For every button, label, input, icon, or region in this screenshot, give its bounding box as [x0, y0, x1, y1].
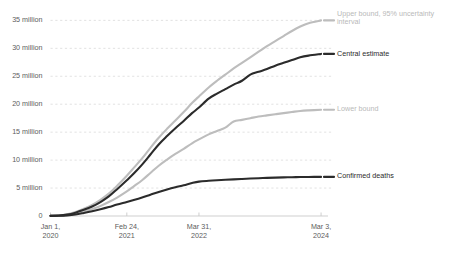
y-tick-label-7: 35 million	[12, 15, 42, 24]
x-tick-label-2-line1: Mar 31,	[187, 222, 211, 231]
x-tick-label-1-line1: Feb 24,	[115, 222, 139, 231]
y-tick-label-4: 20 million	[12, 99, 42, 108]
series-line-lower-bound	[51, 110, 322, 216]
data-series	[51, 20, 322, 216]
y-tick-label-3: 15 million	[12, 127, 42, 136]
chart-container: 05 million10 million15 million20 million…	[0, 0, 453, 256]
y-tick-label-1: 5 million	[16, 183, 42, 192]
legend-label-central-estimate: Central estimate	[337, 49, 389, 58]
x-tick-label-1-line2: 2021	[119, 231, 135, 240]
x-tick-label-0-line2: 2020	[43, 231, 59, 240]
y-axis-tick-labels: 05 million10 million15 million20 million…	[12, 15, 42, 220]
legend-label-lower-bound: Lower bound	[337, 104, 379, 113]
inline-series-labels: Upper bound, 95% uncertaintyintervalCent…	[324, 9, 435, 180]
legend-label-upper-bound-95-uncertainty-interval-line2: interval	[337, 17, 361, 26]
y-tick-label-2: 10 million	[12, 155, 42, 164]
axes	[51, 213, 329, 217]
x-tick-label-3-line2: 2024	[313, 231, 329, 240]
line-chart: 05 million10 million15 million20 million…	[0, 0, 453, 256]
x-tick-label-2-line2: 2022	[191, 231, 207, 240]
y-tick-label-0: 0	[39, 211, 43, 220]
series-line-central-estimate	[51, 54, 322, 216]
y-tick-label-5: 25 million	[12, 71, 42, 80]
x-tick-label-0-line1: Jan 1,	[41, 222, 61, 231]
legend-label-confirmed-deaths: Confirmed deaths	[337, 171, 394, 180]
y-tick-label-6: 30 million	[12, 43, 42, 52]
x-axis-tick-labels: Jan 1,2020Feb 24,2021Mar 31,2022Mar 3,20…	[41, 222, 332, 240]
x-tick-label-3-line1: Mar 3,	[311, 222, 331, 231]
